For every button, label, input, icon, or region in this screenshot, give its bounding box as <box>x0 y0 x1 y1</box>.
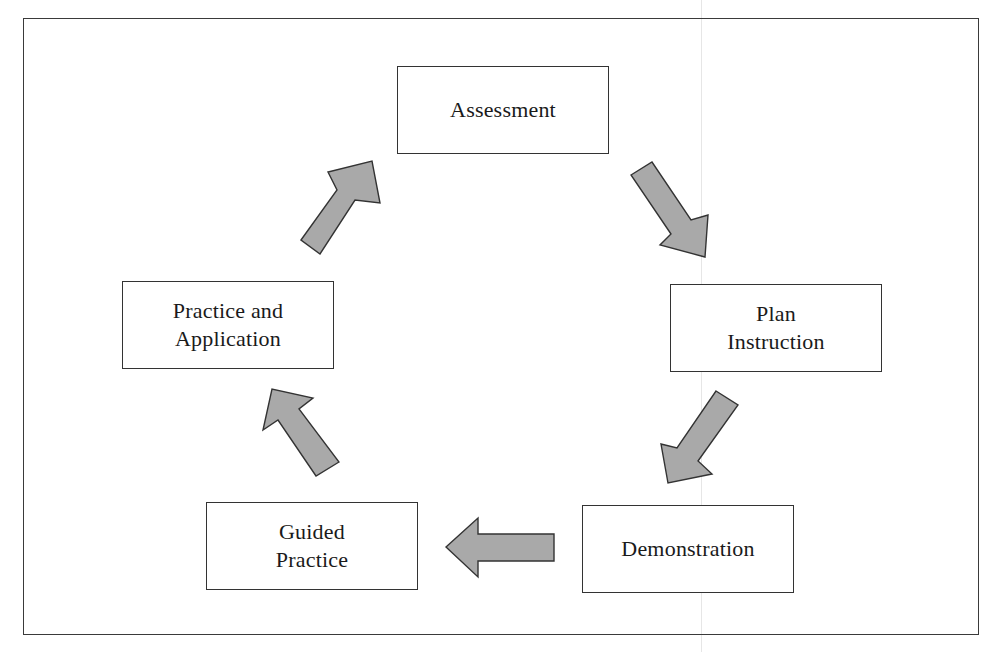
node-label: Assessment <box>450 96 556 124</box>
node-label-line-1: Plan <box>756 300 796 328</box>
node-label-line-2: Instruction <box>727 328 825 356</box>
node-guided-practice: Guided Practice <box>206 502 418 590</box>
node-label-line-2: Application <box>175 325 281 353</box>
node-demonstration: Demonstration <box>582 505 794 593</box>
node-assessment: Assessment <box>397 66 609 154</box>
node-label-line-2: Practice <box>276 546 348 574</box>
node-label-line-1: Guided <box>279 518 345 546</box>
node-label-line-1: Practice and <box>173 297 284 325</box>
node-practice-and-application: Practice and Application <box>122 281 334 369</box>
node-plan-instruction: Plan Instruction <box>670 284 882 372</box>
node-label: Demonstration <box>621 535 754 563</box>
